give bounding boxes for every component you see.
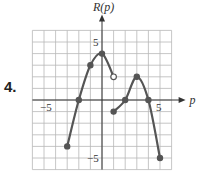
closed-point [123,97,128,102]
closed-point [146,97,151,102]
y-axis-label: R(p) [92,0,114,14]
y-axis-arrow-icon [99,14,105,21]
closed-point [65,144,70,149]
y-tick-label: 5 [93,36,99,48]
x-axis-label: p [189,93,196,107]
open-point [111,74,117,80]
closed-point [99,51,104,56]
x-tick-label: −5 [40,101,52,113]
y-tick-label: −5 [87,152,99,164]
axes: pR(p) [32,0,195,169]
x-axis-arrow-icon [179,97,186,103]
closed-point [157,155,162,160]
x-tick-label: 5 [156,101,162,113]
closed-point [88,63,93,68]
closed-point [134,74,139,79]
closed-point [76,97,81,102]
graph-R-of-p: pR(p) −555−5 [0,0,200,186]
closed-point [111,109,116,114]
